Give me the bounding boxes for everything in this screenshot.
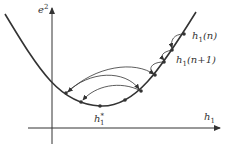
label-h1-n-plus-1: h1(n+1)	[176, 55, 216, 68]
iteration-arcs	[66, 34, 184, 100]
error-surface-diagram: e2 h1 h1(n) h1(n+1) h*1	[0, 0, 228, 154]
iteration-points	[64, 32, 186, 108]
diagram-canvas	[0, 0, 228, 154]
error-curve	[5, 12, 196, 106]
label-h1-optimal: h*1	[94, 113, 104, 127]
label-h1-n: h1(n)	[192, 31, 217, 44]
y-axis-label: e2	[38, 4, 48, 15]
x-axis-label: h1	[204, 112, 215, 125]
